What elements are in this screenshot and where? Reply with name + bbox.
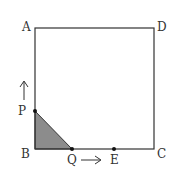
point-p <box>33 109 37 113</box>
point-e <box>112 147 116 151</box>
label-d: D <box>157 20 167 34</box>
point-q <box>70 147 74 151</box>
label-b: B <box>21 147 30 161</box>
shaded-triangle-pbq <box>35 111 72 149</box>
arrow-up-icon <box>20 81 28 100</box>
label-e: E <box>110 153 119 167</box>
label-p: P <box>18 104 26 118</box>
geometry-diagram: A D P B Q E C <box>0 0 175 178</box>
label-q: Q <box>67 153 77 167</box>
label-c: C <box>157 147 166 161</box>
label-a: A <box>21 20 31 34</box>
arrow-right-icon <box>81 156 101 164</box>
